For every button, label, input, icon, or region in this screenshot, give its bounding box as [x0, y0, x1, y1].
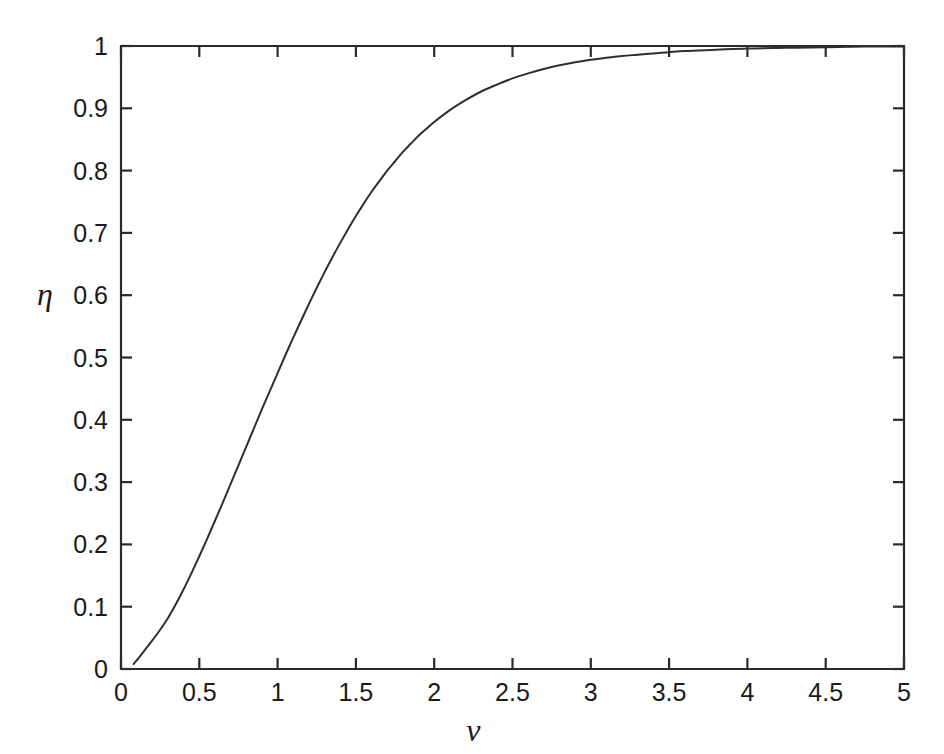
x-tick-label: 3: [584, 678, 598, 706]
y-tick-label: 0.1: [73, 593, 108, 621]
x-tick-label: 0.5: [182, 678, 217, 706]
x-axis-ticks: [121, 46, 904, 669]
y-tick-label: 0.2: [73, 530, 108, 558]
y-tick-label: 0.3: [73, 468, 108, 496]
y-tick-label: 0.6: [73, 281, 108, 309]
plot-frame: [121, 46, 904, 669]
x-tick-label: 4.5: [808, 678, 843, 706]
axis-frame: [121, 46, 904, 669]
y-tick-label: 0.5: [73, 344, 108, 372]
y-tick-label: 0.7: [73, 219, 108, 247]
x-axis-title: ν: [466, 712, 481, 748]
x-tick-label: 5: [897, 678, 911, 706]
x-axis-tick-labels: 00.511.522.533.544.55: [114, 678, 911, 706]
y-axis-ticks: [121, 46, 904, 669]
x-tick-label: 2: [427, 678, 441, 706]
y-tick-label: 0.9: [73, 94, 108, 122]
y-axis-title: η: [37, 276, 53, 312]
x-tick-label: 3.5: [652, 678, 687, 706]
y-tick-label: 0.4: [73, 406, 108, 434]
x-tick-label: 2.5: [495, 678, 530, 706]
chart-figure: 00.511.522.533.544.55 00.10.20.30.40.50.…: [0, 0, 944, 754]
line-chart: 00.511.522.533.544.55 00.10.20.30.40.50.…: [0, 0, 944, 754]
y-tick-label: 1: [94, 32, 108, 60]
x-tick-label: 4: [740, 678, 754, 706]
data-series-efficiency: [134, 47, 904, 664]
y-axis-tick-labels: 00.10.20.30.40.50.60.70.80.91: [73, 32, 108, 683]
y-tick-label: 0: [94, 655, 108, 683]
x-tick-label: 0: [114, 678, 128, 706]
x-tick-label: 1.5: [339, 678, 374, 706]
x-tick-label: 1: [271, 678, 285, 706]
y-tick-label: 0.8: [73, 157, 108, 185]
